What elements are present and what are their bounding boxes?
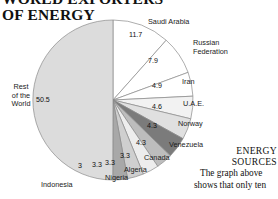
value-norway: 4.3: [147, 122, 157, 130]
label-saudi-arabia: Saudi Arabia: [148, 18, 189, 27]
value-saudi-arabia: 11.7: [129, 31, 142, 39]
article-heading: ENERGY SOURCES: [194, 146, 278, 167]
value-iran: 4.9: [152, 82, 162, 90]
label-iran: Iran: [182, 78, 195, 87]
label-rest-of-world: Rest of the World: [2, 83, 40, 109]
label-nigeria: Nigeria: [105, 174, 128, 183]
article-body: The graph above shows that only ten: [194, 168, 278, 191]
page-root: WORLD EXPORTERS OF ENERGY 50.5 11.7 7.9 …: [0, 0, 278, 199]
value-canada: 3.3: [120, 152, 130, 160]
article-sidebar: ENERGY SOURCES The graph above shows tha…: [194, 146, 278, 191]
label-norway: Norway: [178, 120, 203, 129]
value-uae: 4.6: [152, 103, 162, 111]
value-indonesia: 3: [78, 162, 82, 170]
label-russian-federation: Russian Federation: [193, 39, 228, 56]
label-indonesia: Indonesia: [41, 181, 73, 190]
value-russian-federation: 7.9: [148, 57, 158, 65]
value-algeria: 3.3: [105, 159, 115, 167]
value-venezuela: 4.3: [136, 139, 146, 147]
label-canada: Canada: [144, 154, 170, 163]
value-nigeria: 3.3: [92, 161, 102, 169]
label-uae: U.A.E.: [183, 100, 204, 109]
